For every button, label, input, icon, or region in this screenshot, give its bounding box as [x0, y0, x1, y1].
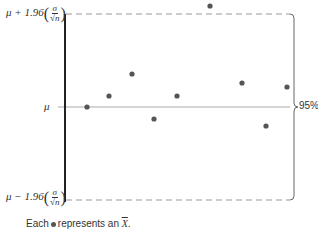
sample-mean-points [84, 3, 289, 128]
data-point [174, 93, 179, 98]
caption-text: represents an [58, 218, 119, 229]
brace-icon [290, 14, 298, 200]
data-point [239, 80, 244, 85]
data-point [129, 71, 134, 76]
data-point [151, 116, 156, 121]
mean-label: μ [44, 100, 50, 112]
data-point [84, 104, 89, 109]
lower-bound-label: μ − 1.96(σ√n) [6, 188, 66, 207]
caption-period: . [128, 218, 131, 229]
data-point [263, 123, 268, 128]
upper-prefix: μ + 1.96 [6, 6, 44, 18]
point-icon [51, 222, 56, 227]
upper-bound-label: μ + 1.96(σ√n) [6, 4, 66, 23]
caption: Eachrepresents an X. [26, 218, 131, 229]
sqrt-n: √n [50, 198, 59, 207]
confidence-label: 95% [299, 100, 318, 111]
data-point [284, 84, 289, 89]
data-point [207, 3, 212, 8]
caption-text: Each [26, 218, 49, 229]
lower-prefix: μ − 1.96 [6, 190, 44, 202]
sqrt-n: √n [50, 14, 59, 23]
data-point [106, 93, 111, 98]
